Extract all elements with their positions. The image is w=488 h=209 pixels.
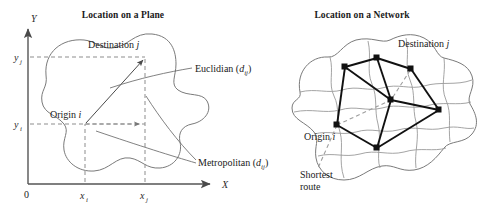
network-node: [408, 66, 414, 72]
network-panel: Destination j Origin i Shortest route: [292, 35, 476, 192]
network-edges: [337, 58, 439, 148]
euclidian-leader-line: [110, 68, 192, 88]
network-node: [342, 64, 348, 70]
plane-xtick-xj: x j: [139, 190, 148, 204]
plane-ytick-yj: y j: [13, 52, 22, 66]
figure-root: Location on a Plane Location on a Networ…: [0, 0, 488, 209]
euclidian-distance-label: Euclidian (dij): [195, 63, 251, 77]
network-nodes: [334, 55, 442, 151]
svg-text:x: x: [79, 190, 85, 201]
network-node-origin: [334, 122, 340, 128]
svg-text:Metropolitan (dij): Metropolitan (dij): [198, 157, 268, 171]
plane-destination-label: Destination j: [88, 39, 140, 50]
plane-y-axis-label: Y: [31, 13, 38, 24]
network-node: [374, 55, 380, 61]
network-node: [388, 97, 394, 103]
svg-text:y: y: [13, 52, 19, 63]
svg-text:Destination j: Destination j: [398, 38, 450, 49]
svg-text:i: i: [86, 196, 88, 204]
svg-text:j: j: [145, 196, 148, 204]
svg-text:Origin i: Origin i: [50, 109, 82, 120]
svg-text:Shortest: Shortest: [300, 169, 333, 180]
svg-text:Origin i: Origin i: [304, 131, 336, 142]
svg-text:i: i: [20, 125, 22, 133]
network-destination-label: Destination j: [398, 38, 450, 49]
svg-text:x: x: [139, 190, 145, 201]
shortest-route-label: Shortest route: [300, 169, 333, 192]
euclidian-distance-arrow: [86, 60, 143, 123]
shortest-route-path: [337, 69, 411, 125]
plane-region-outline: [42, 34, 209, 171]
svg-text:Euclidian (dij): Euclidian (dij): [195, 63, 251, 77]
network-node: [374, 145, 380, 151]
plane-origin-label: Origin i: [50, 109, 82, 120]
network-origin-label: Origin i: [304, 131, 336, 142]
network-node: [436, 107, 442, 113]
svg-text:route: route: [300, 181, 321, 192]
plane-x-axis-label: X: [221, 179, 229, 190]
svg-text:j: j: [19, 58, 22, 66]
svg-text:y: y: [13, 119, 19, 130]
figure-canvas: Y X 0 y j y i x i x j: [0, 0, 488, 209]
plane-origin-tick: 0: [24, 189, 29, 200]
svg-text:Destination j: Destination j: [88, 39, 140, 50]
metropolitan-distance-label: Metropolitan (dij): [198, 157, 268, 171]
plane-ytick-yi: y i: [13, 119, 22, 133]
plane-xtick-xi: x i: [79, 190, 88, 204]
plane-panel: Y X 0 y j y i x i x j: [13, 13, 268, 204]
